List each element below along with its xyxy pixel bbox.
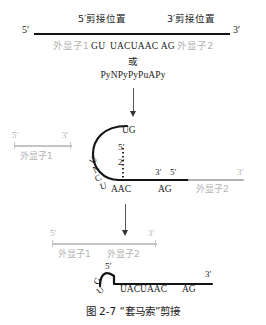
pre-mrna-end-3-label: 3′ <box>233 25 240 35</box>
ligated-exon1-label: 外显子1 <box>58 250 91 259</box>
released-intron-end-5-label: 5′ <box>105 262 111 271</box>
ligated-mrna-right-tick <box>155 240 156 247</box>
lariat-donor-seq-label: UG <box>122 126 136 136</box>
lariat-branch-5prime-label: 5′ <box>118 143 124 152</box>
splice-site-3-label: 3′剪接位置 <box>167 14 215 24</box>
pre-mrna-backbone <box>34 33 230 35</box>
consensus-sequence-label: PyNPyPyPuAPy <box>0 70 266 80</box>
process-arrow-1-head <box>130 111 136 117</box>
pre-mrna-exon2-label: 外显子2 <box>177 38 213 52</box>
free-exon1-backbone <box>14 145 72 147</box>
ligated-mrna-backbone <box>52 243 157 245</box>
donor-site-sequence: GU <box>91 41 105 51</box>
process-arrow-2-head <box>122 230 128 236</box>
ligated-mrna-end-3-label: 3′ <box>148 229 154 238</box>
ligated-mrna-end-5-label: 5′ <box>50 229 56 238</box>
pre-mrna-exon1-label: 外显子1 <box>53 38 89 52</box>
process-arrow-2-shaft <box>125 204 126 231</box>
figure-caption: 图 2-7 “套马索”剪接 <box>0 303 266 318</box>
released-intron-end-3-label: 3′ <box>205 270 211 279</box>
lariat-intron-end-3-label: 3′ <box>155 168 161 177</box>
ligated-exon2-label: 外显子2 <box>107 250 140 259</box>
pre-mrna-sequence-row: 外显子1 GU UACUAAC AG 外显子2 <box>0 38 266 52</box>
acceptor-site-sequence: AG <box>161 41 175 51</box>
free-exon1-right-tick <box>70 142 71 149</box>
lariat-acceptor-seq-label: AG <box>158 185 172 195</box>
process-arrow-1-shaft <box>133 88 134 112</box>
free-exon1-end-5-label: 5′ <box>12 131 18 140</box>
lariat-branch-seq-label: AAC <box>111 185 131 195</box>
released-intron-branch-seq-label: UACUAAC <box>120 285 167 295</box>
released-intron-acceptor-seq-label: AG <box>182 285 196 295</box>
lariat-exon2-label: 外显子2 <box>196 185 229 194</box>
alternative-conjunction-label: 或 <box>0 54 266 68</box>
free-exon1-label: 外显子1 <box>20 152 53 161</box>
lariat-branch-2prime-label: 2′ <box>118 158 124 167</box>
pre-mrna-end-5-label: 5′ <box>22 25 29 35</box>
lariat-splicing-figure: 5′剪接位置 3′剪接位置 5′ 3′ 外显子1 GU UACUAAC AG 外… <box>0 0 266 325</box>
branch-point-sequence: UACUAAC <box>110 41 158 51</box>
lariat-exon2-end-5-label: 5′ <box>170 168 176 177</box>
lariat-exon2-end-3-label: 3′ <box>237 168 243 177</box>
splice-site-5-label: 5′剪接位置 <box>78 14 126 24</box>
free-exon1-end-3-label: 3′ <box>62 131 68 140</box>
